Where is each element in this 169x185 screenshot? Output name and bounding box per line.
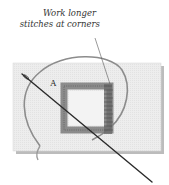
- callout-line-1: Work longer: [0, 8, 100, 19]
- callout-caption: Work longer stitches at corners: [0, 8, 100, 30]
- stitched-square: [64, 84, 113, 134]
- callout-line-2: stitches at corners: [0, 19, 100, 30]
- point-label-a: A: [50, 78, 57, 88]
